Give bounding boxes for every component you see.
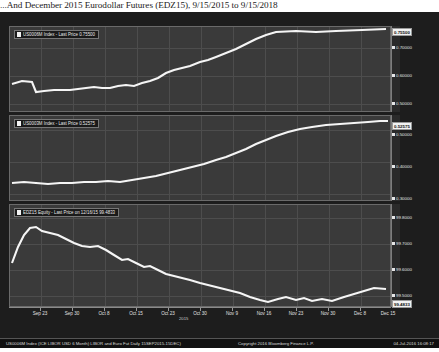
x-label-10: Dec 8 [354, 311, 366, 316]
last-price-box-2: 0.52575 [392, 122, 412, 130]
bloomberg-terminal-window: US0006M Index - Last Price 0.75500 0.755… [0, 12, 439, 348]
x-label-6: Nov 9 [226, 311, 238, 316]
legend-swatch-icon [17, 210, 21, 215]
x-label-8: Nov 23 [289, 311, 304, 316]
x-label-9: Nov 30 [321, 311, 336, 316]
y-tick-3-0: 99.8000 [391, 214, 439, 221]
x-axis: Sep 23 Sep 30 Oct 8 Oct 15 Oct 23 Oct 30… [9, 307, 391, 321]
y-tick-2-2: 0.30000 [391, 195, 439, 202]
line-series-panel-3 [10, 205, 390, 306]
figure-caption: ...And December 2015 Eurodollar Futures … [0, 0, 439, 12]
y-tick-1-0: 0.70000 [391, 44, 439, 51]
line-series-panel-1 [10, 27, 390, 111]
y-tick-3-1: 99.7000 [391, 240, 439, 247]
y-tick-1-2: 0.50000 [391, 100, 439, 107]
status-timestamp: 04-Jul-2016 16:08:17 [393, 341, 434, 346]
x-label-1: Sep 30 [65, 311, 80, 316]
x-label-7: Nov 16 [257, 311, 272, 316]
x-label-11: Dec 15 [381, 311, 396, 316]
screenshot-root: ...And December 2015 Eurodollar Futures … [0, 0, 439, 352]
y-tick-3-2: 99.6000 [391, 266, 439, 273]
status-security-descriptor: US0006M Index (ICE LIBOR USD 6 Month) LI… [6, 341, 181, 346]
x-label-2: Oct 8 [99, 311, 110, 316]
x-label-4: Oct 23 [161, 311, 175, 316]
status-bar: US0006M Index (ICE LIBOR USD 6 Month) LI… [0, 338, 439, 348]
legend-label: EDZ15 Equity - Last Price on 12/16/15 99… [23, 210, 115, 215]
status-copyright: Copyright 2016 Bloomberg Finance L.P. [238, 341, 314, 346]
legend-swatch-icon [17, 32, 21, 37]
x-label-0: Sep 23 [33, 311, 48, 316]
line-series-panel-2 [10, 116, 390, 200]
legend-panel-2: US0003M Index - Last Price 0.52575 [14, 119, 99, 128]
x-axis-year: 2015 [179, 316, 188, 321]
x-label-3: Oct 15 [129, 311, 143, 316]
legend-panel-1: US0006M Index - Last Price 0.75500 [14, 30, 99, 39]
x-label-5: Oct 30 [193, 311, 207, 316]
last-price-box-1: 0.75500 [392, 28, 412, 36]
chart-panel-3[interactable]: EDZ15 Equity - Last Price on 12/16/15 99… [9, 204, 391, 307]
legend-label: US0003M Index - Last Price 0.52575 [23, 121, 95, 126]
chart-panel-2[interactable]: US0003M Index - Last Price 0.52575 [9, 115, 391, 201]
legend-label: US0006M Index - Last Price 0.75500 [23, 32, 95, 37]
legend-panel-3: EDZ15 Equity - Last Price on 12/16/15 99… [14, 208, 119, 217]
chart-panel-1[interactable]: US0006M Index - Last Price 0.75500 [9, 26, 391, 112]
y-tick-3-3: 99.5000 [391, 292, 439, 299]
y-tick-1-1: 0.60000 [391, 72, 439, 79]
legend-swatch-icon [17, 121, 21, 126]
y-tick-2-1: 0.40000 [391, 163, 439, 170]
last-price-box-3: 99.4833 [392, 300, 412, 308]
y-tick-2-0: 0.50000 [391, 131, 439, 138]
